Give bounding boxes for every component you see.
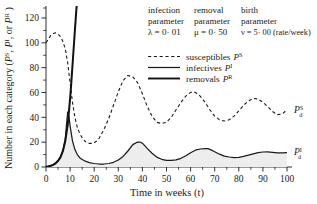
infection-line1: infection <box>148 5 180 15</box>
y-axis-title: Number in each category (PS, PI, or PR ) <box>3 7 16 169</box>
x-axis-title-text: Time in weeks (t) <box>130 187 204 199</box>
legend-sup-susceptibles: S <box>239 51 243 58</box>
annotation-infection: infection parameter λ = 0· 01 <box>148 5 184 37</box>
y-tick-60: 60 <box>30 88 40 98</box>
svg-text:Number in each category (PS, P: Number in each category (PS, PI, or PR ) <box>3 7 16 169</box>
y-tick-20: 20 <box>30 137 40 147</box>
y-tick-120: 120 <box>25 13 40 23</box>
legend-label-infectives: infectives <box>186 63 222 73</box>
removal-line1: removal <box>194 5 224 15</box>
svg-text:infectivesPI: infectivesPI <box>186 62 232 74</box>
y-tick-100: 100 <box>25 38 40 48</box>
infection-line3: λ = 0· 01 <box>148 27 181 37</box>
birth-line1: birth <box>241 5 258 15</box>
label-susceptibles-sup: S <box>300 104 304 111</box>
figure-seir-epidemic: 0 20 40 60 80 100 120 0 10 20 30 40 50 6… <box>0 0 317 204</box>
x-tick-20: 20 <box>89 174 99 184</box>
chart-svg: 0 20 40 60 80 100 120 0 10 20 30 40 50 6… <box>0 0 317 204</box>
birth-line3: ν = 5· 00 (rate/week) <box>241 28 311 37</box>
infection-line2: parameter <box>148 16 184 26</box>
x-tick-80: 80 <box>234 174 244 184</box>
removal-line3: μ = 0· 50 <box>194 27 228 37</box>
removal-line2: parameter <box>194 16 230 26</box>
x-tick-0: 0 <box>44 174 49 184</box>
y-axis-title-p3: P <box>3 17 14 24</box>
legend-sup-infectives: I <box>230 62 232 69</box>
x-tick-10: 10 <box>65 174 75 184</box>
x-tick-60: 60 <box>186 174 196 184</box>
legend-label-removals: removals <box>186 74 220 84</box>
svg-text:susceptiblesPS: susceptiblesPS <box>186 51 243 63</box>
y-axis-title-close: ) <box>3 7 15 13</box>
x-tick-100: 100 <box>280 174 295 184</box>
svg-text:removalsPR: removalsPR <box>186 73 233 85</box>
x-tick-70: 70 <box>210 174 220 184</box>
y-axis-title-p1: P <box>3 56 14 63</box>
x-axis-title: Time in weeks (t) <box>130 187 204 199</box>
birth-line2: parameter <box>241 16 277 26</box>
x-tick-30: 30 <box>114 174 124 184</box>
x-tick-50: 50 <box>162 174 172 184</box>
legend-label-susceptibles: susceptibles <box>186 52 231 62</box>
y-axis-title-main: Number in each category ( <box>3 62 15 169</box>
y-tick-40: 40 <box>30 113 40 123</box>
label-infectives-sup: I <box>300 146 302 153</box>
y-axis-title-mid2: , or <box>3 23 14 39</box>
x-tick-90: 90 <box>258 174 268 184</box>
y-tick-80: 80 <box>30 63 40 73</box>
y-axis-title-p2: P <box>3 41 14 48</box>
x-tick-40: 40 <box>138 174 148 184</box>
y-tick-0: 0 <box>34 162 39 172</box>
